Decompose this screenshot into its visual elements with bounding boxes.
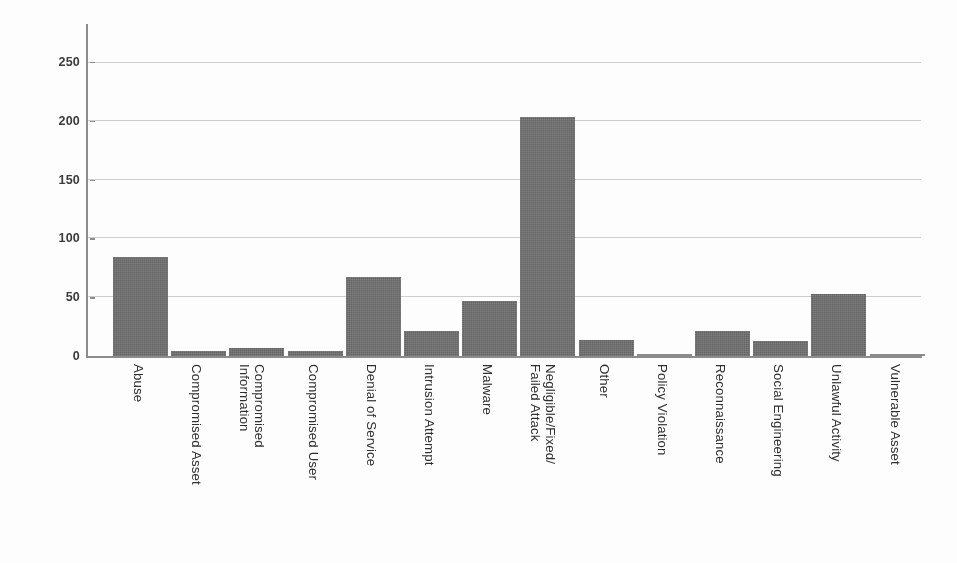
y-tick-label-150: 150	[10, 173, 80, 187]
x-label-0: Abuse	[130, 364, 145, 402]
x-label-5: Intrusion Attempt	[421, 364, 436, 465]
bar-12	[811, 294, 866, 356]
x-label-3: Compromised User	[305, 364, 320, 480]
y-tick-label-200: 200	[10, 114, 80, 128]
x-label-1: Compromised Asset	[189, 364, 204, 485]
x-label-2: Compromised Information	[237, 364, 266, 448]
bar-6	[462, 301, 517, 356]
y-tick-label-100: 100	[10, 231, 80, 245]
y-axis-tick-labels: 050100150200250	[8, 0, 80, 563]
x-label-6: Malware	[480, 364, 495, 415]
y-tick-label-0: 0	[10, 349, 80, 363]
x-label-8: Other	[596, 364, 611, 398]
x-label-13: Vulnerable Asset	[887, 364, 902, 465]
bar-5	[404, 331, 459, 356]
x-label-12: Unlawful Activity	[829, 364, 844, 462]
x-label-10: Reconnaissance	[712, 364, 727, 464]
x-label-11: Social Engineering	[771, 364, 786, 477]
y-axis-line	[86, 24, 88, 358]
bar-7	[520, 117, 575, 356]
y-tick-mark-200	[90, 121, 95, 122]
x-label-4: Denial of Service	[363, 364, 378, 466]
bar-0	[113, 257, 168, 356]
x-label-9: Policy Violation	[654, 364, 669, 456]
plot-area	[87, 25, 921, 356]
y-tick-label-250: 250	[10, 55, 80, 69]
bar-11	[753, 341, 808, 356]
bar-8	[579, 340, 634, 356]
y-tick-mark-0	[90, 356, 95, 357]
y-tick-label-50: 50	[10, 290, 80, 304]
bars-layer	[87, 25, 921, 356]
x-axis-line	[86, 356, 922, 358]
bar-10	[695, 331, 750, 356]
y-tick-mark-100	[90, 238, 95, 239]
bar-chart: 050100150200250 AbuseCompromised AssetCo…	[0, 0, 957, 563]
y-tick-mark-50	[90, 297, 95, 298]
y-tick-mark-250	[90, 62, 95, 63]
bar-2	[229, 348, 284, 356]
bar-4	[346, 277, 401, 356]
y-tick-mark-150	[90, 180, 95, 181]
x-label-7: Negligible/Fixed/ Failed Attack	[528, 364, 557, 464]
